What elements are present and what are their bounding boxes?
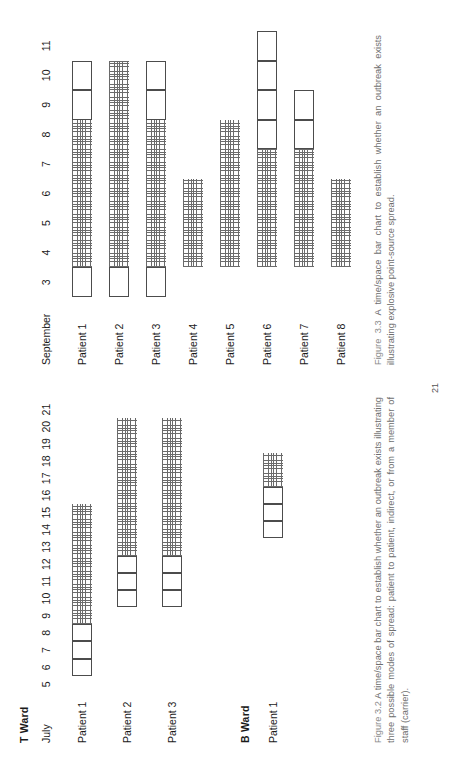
bar-segment-open xyxy=(146,61,166,91)
axis-scale-july: 56789101112131415161718192021 xyxy=(40,383,53,765)
page-folio: 21 xyxy=(430,383,440,393)
axis-tick: 10 xyxy=(40,593,52,605)
axis-tick: 13 xyxy=(40,541,52,553)
bar-segment-open xyxy=(162,556,182,573)
bar-patient-1 xyxy=(263,401,283,765)
axis-tick: 9 xyxy=(40,102,52,108)
axis-tick: 6 xyxy=(40,664,52,670)
bar-segment-hatched xyxy=(146,120,166,268)
bar-patient-5 xyxy=(220,31,240,383)
ward-title-b: B Ward xyxy=(239,705,251,743)
bar-segment-open xyxy=(146,90,166,120)
bar-segment-hatched xyxy=(162,418,182,555)
bar-segment-open xyxy=(263,521,283,538)
bar-segment-open xyxy=(162,573,182,590)
bar-segment-open xyxy=(257,90,277,120)
bar-patient-8 xyxy=(331,31,351,383)
axis-tick: 20 xyxy=(40,421,52,433)
figure-3-2-caption-text: A time/space bar chart to establish whet… xyxy=(373,397,410,743)
bar-segment-open xyxy=(263,487,283,504)
axis-tick: 7 xyxy=(40,647,52,653)
axis-tick: 19 xyxy=(40,438,52,450)
bar-patient-2 xyxy=(109,31,129,383)
axis-tick: 3 xyxy=(40,279,52,285)
bar-segment-hatched xyxy=(72,504,92,624)
axis-tick: 15 xyxy=(40,507,52,519)
axis-tick: 7 xyxy=(40,161,52,167)
axis-tick: 5 xyxy=(40,220,52,226)
axis-scale-september: 34567891011 xyxy=(40,0,53,383)
figure-3-2-caption: Figure 3.2 A time/space bar chart to est… xyxy=(372,397,412,743)
bar-segment-open xyxy=(257,120,277,150)
bar-patient-4 xyxy=(183,31,203,383)
axis-tick: 8 xyxy=(40,132,52,138)
figure-3-2-number: Figure 3.2 xyxy=(373,701,383,743)
bar-segment-hatched xyxy=(109,61,129,268)
axis-tick: 18 xyxy=(40,455,52,467)
bar-segment-open xyxy=(72,641,92,658)
bar-patient-1 xyxy=(72,401,92,765)
page-content: T Ward July 5678910111213141516171819202… xyxy=(0,0,451,765)
bar-patient-3 xyxy=(162,401,182,765)
bar-segment-hatched xyxy=(263,453,283,487)
bar-segment-open xyxy=(263,504,283,521)
bar-segment-hatched xyxy=(117,418,137,555)
bar-segment-open xyxy=(72,659,92,676)
bar-segment-open xyxy=(294,90,314,120)
axis-tick: 5 xyxy=(40,682,52,688)
axis-tick: 9 xyxy=(40,613,52,619)
axis-tick: 21 xyxy=(40,404,52,416)
bar-patient-1 xyxy=(72,31,92,383)
bar-segment-open xyxy=(146,267,166,297)
bar-segment-open xyxy=(257,61,277,91)
figure-3-3-caption: Figure 3.3 A time/space bar chart to est… xyxy=(372,35,399,365)
bar-segment-open xyxy=(72,267,92,297)
figure-3-3-number: Figure 3.3 xyxy=(373,320,383,365)
axis-tick: 16 xyxy=(40,490,52,502)
ward-title-t: T Ward xyxy=(18,707,30,743)
bar-segment-hatched xyxy=(220,120,240,268)
bar-segment-open xyxy=(162,590,182,607)
axis-tick: 11 xyxy=(40,576,52,587)
axis-tick: 14 xyxy=(40,524,52,536)
bar-segment-open xyxy=(117,556,137,573)
bar-segment-open xyxy=(294,120,314,150)
axis-tick: 6 xyxy=(40,191,52,197)
bar-segment-hatched xyxy=(331,179,351,268)
bar-segment-open xyxy=(72,61,92,91)
bar-patient-2 xyxy=(117,401,137,765)
axis-tick: 17 xyxy=(40,472,52,484)
bar-segment-open xyxy=(72,624,92,641)
bar-segment-hatched xyxy=(183,179,203,268)
bar-segment-open xyxy=(117,573,137,590)
bar-segment-hatched xyxy=(72,120,92,268)
axis-tick: 10 xyxy=(40,70,52,82)
bar-patient-7 xyxy=(294,31,314,383)
axis-tick: 11 xyxy=(40,40,52,51)
axis-tick: 4 xyxy=(40,250,52,256)
bar-segment-open xyxy=(117,590,137,607)
bar-segment-hatched xyxy=(257,149,277,267)
figure-3-3: September 34567891011 Patient 1Patient 2… xyxy=(0,0,451,383)
bar-segment-open xyxy=(72,90,92,120)
axis-tick: 8 xyxy=(40,630,52,636)
figure-3-3-caption-text: A time/space bar chart to establish whet… xyxy=(373,35,396,365)
bar-patient-6 xyxy=(257,31,277,383)
bar-patient-3 xyxy=(146,31,166,383)
figure-3-2: T Ward July 5678910111213141516171819202… xyxy=(0,383,451,765)
axis-tick: 12 xyxy=(40,558,52,570)
bar-segment-hatched xyxy=(294,149,314,267)
bar-segment-open xyxy=(257,31,277,61)
bar-segment-open xyxy=(109,267,129,297)
rotated-page: T Ward July 5678910111213141516171819202… xyxy=(0,0,451,765)
